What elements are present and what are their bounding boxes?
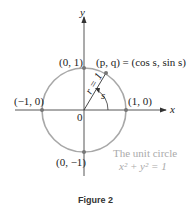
point-bottom-label: (0, −1)	[56, 156, 86, 169]
angle-label: s	[101, 89, 105, 101]
unit-circle-caption: The unit circle	[113, 147, 177, 159]
origin-label: 0	[77, 111, 83, 123]
point-bottom	[82, 150, 86, 154]
point-left	[40, 108, 44, 112]
x-axis-label: x	[169, 103, 175, 115]
point-left-label: (−1, 0)	[14, 95, 44, 108]
point-pq	[104, 71, 108, 75]
y-axis-label: y	[79, 6, 85, 18]
point-top-label: (0, 1)	[59, 56, 83, 69]
unit-circle-diagram: y x 0 (0, 1) (−1, 0) (1, 0) (0, −1) (p, …	[0, 0, 194, 208]
pq-label: (p, q) = (cos s, sin s)	[96, 56, 186, 69]
point-right-label: (1, 0)	[128, 95, 152, 108]
figure-caption: Figure 2	[78, 195, 113, 205]
unit-circle-equation: x² + y² = 1	[118, 160, 167, 172]
point-right	[124, 108, 128, 112]
